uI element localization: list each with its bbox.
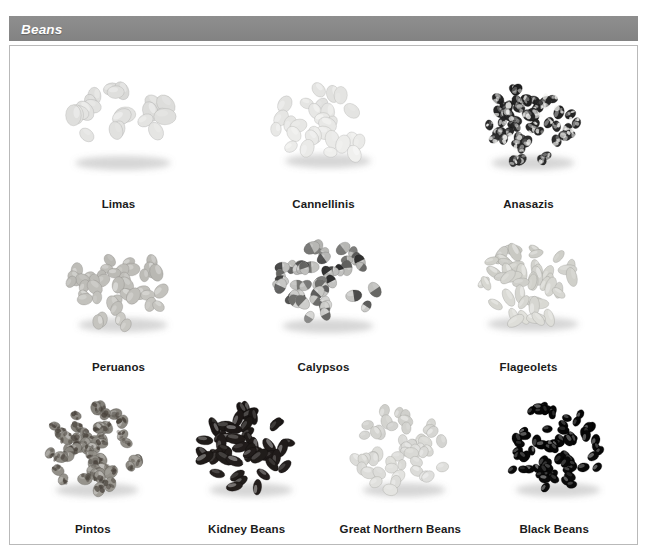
bean-grid-panel: LimasCannellinisAnasazis PeruanosCalypso… (9, 45, 638, 545)
figure-root: Beans LimasCannellinisAnasazis PeruanosC… (0, 0, 647, 555)
bean-label: Kidney Beans (208, 523, 285, 536)
bean-label: Black Beans (519, 523, 589, 536)
bean-pile-wrap (221, 219, 426, 354)
bean-cell: Pintos (16, 381, 170, 544)
bean-row-3: PintosKidney BeansGreat Northern BeansBl… (10, 381, 637, 544)
bean-cell: Kidney Beans (170, 381, 324, 544)
bean-pile-wrap (16, 219, 221, 354)
bean-pile-wrap (324, 381, 478, 516)
bean-label: Calypsos (298, 361, 350, 374)
bean-label: Cannellinis (292, 198, 354, 211)
bean-label: Great Northern Beans (340, 523, 462, 536)
bean-cell: Peruanos (16, 219, 221, 382)
bean-pile-image (489, 392, 619, 506)
page-title: Beans (21, 21, 63, 36)
bean-label: Pintos (75, 523, 111, 536)
bean-grid: LimasCannellinisAnasazis PeruanosCalypso… (10, 46, 637, 544)
bean-pile-wrap (477, 381, 631, 516)
bean-pile-image (465, 69, 593, 179)
bean-cell: Limas (16, 56, 221, 219)
bean-cell: Anasazis (426, 56, 631, 219)
bean-cell: Cannellinis (221, 56, 426, 219)
bean-pile-image (255, 230, 393, 342)
header-bar: Beans (9, 16, 638, 41)
bean-pile-wrap (426, 56, 631, 191)
bean-pile-wrap (221, 56, 426, 191)
bean-pile-image (47, 69, 191, 179)
bean-row-2: PeruanosCalypsosFlageolets (10, 219, 637, 382)
bean-row-1: LimasCannellinisAnasazis (10, 46, 637, 219)
bean-cell: Great Northern Beans (324, 381, 478, 544)
bean-label: Flageolets (500, 361, 558, 374)
bean-pile-image (51, 231, 187, 341)
bean-pile-image (29, 392, 157, 506)
bean-pile-wrap (16, 56, 221, 191)
bean-pile-image (460, 232, 598, 340)
bean-cell: Black Beans (477, 381, 631, 544)
bean-pile-wrap (16, 381, 170, 516)
bean-pile-wrap (170, 381, 324, 516)
bean-pile-image (183, 392, 311, 506)
bean-label: Limas (102, 198, 136, 211)
bean-pile-image (336, 392, 464, 506)
bean-cell: Calypsos (221, 219, 426, 382)
bean-pile-image (258, 71, 390, 177)
bean-pile-wrap (426, 219, 631, 354)
bean-label: Anasazis (503, 198, 554, 211)
bean-cell: Flageolets (426, 219, 631, 382)
bean-label: Peruanos (92, 361, 145, 374)
